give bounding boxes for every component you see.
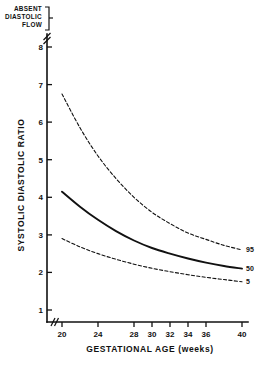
annotation-line-3: FLOW — [22, 21, 43, 28]
y-tick-label-4: 4 — [39, 193, 44, 202]
curve-p5 — [62, 239, 242, 282]
y-tick-label-7: 7 — [39, 81, 44, 90]
annotation-bracket — [45, 7, 49, 30]
x-axis-title: GESTATIONAL AGE (weeks) — [86, 344, 213, 354]
y-tick-label-8: 8 — [39, 43, 44, 52]
x-tick-label-24: 24 — [94, 330, 103, 339]
y-tick-label-1: 1 — [39, 306, 44, 315]
x-tick-label-34: 34 — [184, 330, 193, 339]
absent-diastolic-flow-annotation: ABSENT DIASTOLIC FLOW — [5, 5, 53, 30]
x-tick-label-28: 28 — [130, 330, 139, 339]
curve-p50 — [62, 192, 242, 269]
x-tick-label-36: 36 — [202, 330, 211, 339]
chart-container: ABSENT DIASTOLIC FLOW — [0, 0, 260, 367]
y-axis-title: SYSTOLIC DIASTOLIC RATIO — [16, 119, 26, 252]
annotation-line-1: ABSENT — [14, 5, 42, 12]
chart-curves — [62, 94, 242, 282]
x-axis: 20 24 28 30 32 34 36 40 GESTATIONAL AGE … — [47, 318, 248, 354]
x-axis-tick-labels: 20 24 28 30 32 34 36 40 — [58, 330, 247, 339]
curve-label-p50: 50 — [246, 265, 254, 272]
y-tick-label-3: 3 — [39, 231, 44, 240]
curve-label-p95: 95 — [246, 246, 254, 253]
x-tick-label-30: 30 — [148, 330, 157, 339]
x-tick-label-32: 32 — [166, 330, 175, 339]
y-tick-label-5: 5 — [39, 156, 44, 165]
y-axis-tick-labels: 8 7 6 5 4 3 2 1 — [39, 43, 44, 315]
x-tick-label-20: 20 — [58, 330, 67, 339]
x-tick-label-40: 40 — [238, 330, 247, 339]
curve-label-p5: 5 — [246, 278, 250, 285]
annotation-line-2: DIASTOLIC — [5, 13, 42, 20]
curve-p95 — [62, 94, 242, 250]
y-tick-label-2: 2 — [39, 268, 44, 277]
curve-labels: 95 50 5 — [246, 246, 254, 285]
y-tick-label-6: 6 — [39, 118, 44, 127]
percentile-line-chart: ABSENT DIASTOLIC FLOW — [0, 0, 260, 367]
y-axis: 8 7 6 5 4 3 2 1 SYSTOLIC DIASTOLIC RATIO — [16, 33, 52, 322]
